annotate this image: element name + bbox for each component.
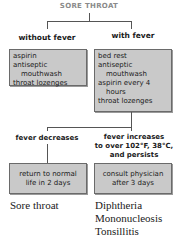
connector-mid-left	[47, 127, 48, 131]
action-line: life in 2 days	[13, 179, 83, 188]
outcome-label-line: fever increases	[90, 133, 178, 142]
connector-top-left	[47, 21, 48, 29]
treatment-item: aspirin every 4	[98, 79, 168, 88]
treatment-item: throat lozenges	[98, 97, 168, 106]
connector-mid-right	[131, 127, 132, 131]
diagnosis: Diphtheria	[95, 199, 162, 212]
branch-label-with-fever: with fever	[90, 31, 176, 40]
action-line: return to normal	[13, 170, 83, 179]
connector-top-stem	[89, 13, 90, 21]
diagnosis: Tonsillitis	[95, 225, 162, 238]
treatment-item: mouthwash	[13, 70, 83, 79]
treatment-box-with-fever: bed rest antiseptic mouthwash aspirin ev…	[94, 49, 172, 112]
treatment-item: antiseptic	[98, 61, 168, 70]
treatment-item: mouthwash	[98, 70, 168, 79]
diagnoses-left: Sore throat	[10, 199, 59, 212]
treatment-item: bed rest	[98, 52, 168, 61]
treatment-box-without-fever: aspirin antiseptic mouthwash throat loze…	[9, 49, 87, 86]
diagnosis: Mononucleosis	[95, 212, 162, 225]
treatment-item: hours	[98, 88, 168, 97]
diagnoses-right: Diphtheria Mononucleosis Tonsillitis	[95, 199, 162, 238]
treatment-item: aspirin	[13, 52, 83, 61]
connector-mid-stem	[131, 112, 132, 127]
outcome-label-line: and persists	[90, 151, 178, 160]
action-line: consult physician	[98, 170, 168, 179]
action-box-consult-physician: consult physician after 3 days	[94, 163, 172, 194]
treatment-item: throat lozenges	[13, 79, 83, 88]
diagram-title: SORE THROAT	[0, 2, 178, 10]
connector-mid-horizontal	[47, 127, 132, 128]
outcome-label-line: to over 102°F, 38°C,	[90, 142, 178, 151]
treatment-item: antiseptic	[13, 61, 83, 70]
branch-label-without-fever: without fever	[4, 33, 90, 42]
outcome-label-fever-increases: fever increases to over 102°F, 38°C, and…	[90, 133, 178, 160]
connector-left-down	[47, 144, 48, 163]
connector-top-right	[131, 21, 132, 29]
outcome-label-fever-decreases: fever decreases	[4, 134, 90, 142]
diagnosis: Sore throat	[10, 199, 59, 212]
action-box-return-normal: return to normal life in 2 days	[9, 163, 87, 194]
connector-top-horizontal	[47, 21, 132, 22]
action-line: after 3 days	[98, 179, 168, 188]
